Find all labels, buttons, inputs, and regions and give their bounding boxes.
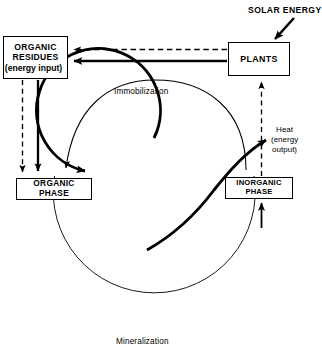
soil-nutrient-cycle-diagram: ORGANIC RESIDUES (energy input) PLANTS O… xyxy=(0,0,322,355)
organic-residues-line-2: RESIDUES xyxy=(13,52,59,62)
plants-label: PLANTS xyxy=(240,54,278,64)
heat-label-line-2: (energy xyxy=(271,135,298,145)
solar-energy-to-plants-connector xyxy=(275,18,294,39)
label-heat-energy-output: Heat (energy output) xyxy=(271,125,298,156)
inorganic-phase-line-2: PHASE xyxy=(245,188,272,197)
organic-residues-line-3: (energy input) xyxy=(5,63,62,73)
heat-label-line-3: output) xyxy=(271,145,298,155)
node-inorganic-phase: INORGANIC PHASE xyxy=(225,177,293,199)
label-solar-energy: SOLAR ENERGY xyxy=(248,5,322,15)
organic-phase-line-2: PHASE xyxy=(39,189,69,199)
organic-residues-line-1: ORGANIC xyxy=(14,42,56,52)
label-immobilization: Immobilization xyxy=(114,87,168,96)
node-organic-phase: ORGANIC PHASE xyxy=(16,178,92,200)
inner-cycle-thick-arc xyxy=(36,48,210,270)
node-organic-residues: ORGANIC RESIDUES (energy input) xyxy=(3,36,68,79)
label-mineralization: Mineralization xyxy=(116,337,169,346)
node-plants: PLANTS xyxy=(228,42,290,76)
heat-label-line-1: Heat xyxy=(271,125,298,135)
